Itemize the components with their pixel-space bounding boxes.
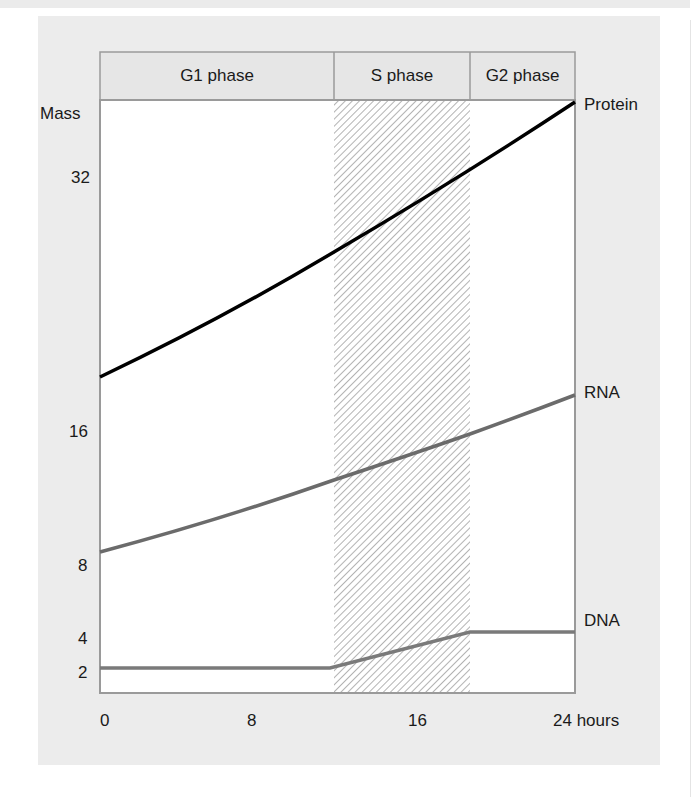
y-tick-8: 8 <box>78 557 87 574</box>
label-rna: RNA <box>584 384 620 401</box>
y-tick-4: 4 <box>78 630 87 647</box>
header-s-phase: S phase <box>334 52 470 100</box>
header-g2-phase: G2 phase <box>470 52 575 100</box>
y-tick-2: 2 <box>78 664 87 681</box>
x-tick-16: 16 <box>408 712 427 729</box>
s-phase-hatch <box>334 100 470 693</box>
y-axis-title: Mass <box>40 105 81 122</box>
y-tick-32: 32 <box>71 169 90 186</box>
x-tick-24-hours: 24 hours <box>553 712 619 729</box>
y-tick-16: 16 <box>69 423 88 440</box>
header-g1-phase: G1 phase <box>100 52 334 100</box>
x-tick-8: 8 <box>247 712 256 729</box>
label-dna: DNA <box>584 612 620 629</box>
x-tick-0: 0 <box>100 712 109 729</box>
label-protein: Protein <box>584 96 638 113</box>
